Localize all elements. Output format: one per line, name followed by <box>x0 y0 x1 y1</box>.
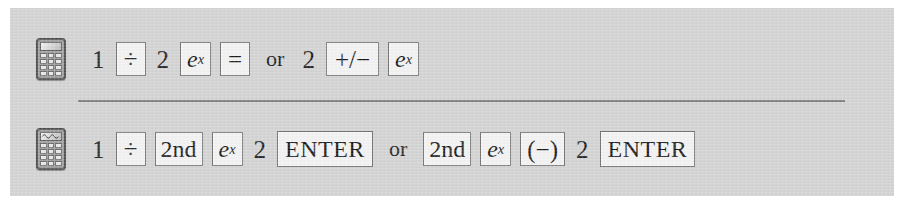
key-e-to-the-x-alt[interactable]: ex <box>480 132 511 166</box>
calculator-key <box>40 149 47 154</box>
key-e-base: e <box>395 47 406 71</box>
calculator-key <box>40 161 47 166</box>
keystroke-row-scientific: 1 ÷ 2 ex = or 2 +/− ex <box>36 30 419 88</box>
calculator-key <box>48 149 55 154</box>
calculator-key <box>40 143 47 148</box>
key-e-base: e <box>219 137 230 161</box>
calculator-keypad <box>40 53 62 76</box>
operand-one: 1 <box>90 47 107 72</box>
calculator-key <box>40 53 47 58</box>
calculator-key <box>55 149 62 154</box>
calculator-key <box>48 53 55 58</box>
operand-two: 2 <box>252 137 269 162</box>
graphing-calculator-icon <box>36 128 66 170</box>
key-divide[interactable]: ÷ <box>116 132 146 166</box>
calculator-key <box>55 53 62 58</box>
key-e-to-the-x[interactable]: ex <box>212 132 243 166</box>
calculator-key <box>40 71 47 76</box>
key-e-base: e <box>187 47 198 71</box>
calculator-keystroke-figure: 1 ÷ 2 ex = or 2 +/− ex <box>10 8 894 196</box>
key-e-to-the-x-alt[interactable]: ex <box>388 42 419 76</box>
calculator-display <box>40 42 62 51</box>
calculator-key <box>48 161 55 166</box>
horizontal-divider <box>78 100 845 102</box>
key-equals[interactable]: = <box>220 42 250 76</box>
operand-one: 1 <box>90 137 107 162</box>
calculator-key <box>40 65 47 70</box>
scientific-calculator-icon <box>36 38 66 80</box>
conjunction-or: or <box>387 138 409 160</box>
operand-two: 2 <box>155 47 172 72</box>
calculator-key <box>55 143 62 148</box>
calculator-key <box>55 155 62 160</box>
calculator-key <box>48 143 55 148</box>
calculator-keypad <box>40 143 62 166</box>
key-second-function[interactable]: 2nd <box>155 132 203 166</box>
calculator-key <box>40 155 47 160</box>
calculator-key <box>48 71 55 76</box>
key-e-base: e <box>487 137 498 161</box>
keystroke-row-graphing: 1 ÷ 2nd ex 2 ENTER or 2nd ex (−) 2 ENTER <box>36 120 695 178</box>
key-enter[interactable]: ENTER <box>277 131 373 167</box>
key-e-to-the-x[interactable]: ex <box>180 42 211 76</box>
calculator-key <box>55 71 62 76</box>
calculator-key <box>55 59 62 64</box>
operand-two-alt: 2 <box>574 137 591 162</box>
key-enter-alt[interactable]: ENTER <box>600 131 696 167</box>
key-negate[interactable]: (−) <box>520 132 565 166</box>
key-plus-minus[interactable]: +/− <box>326 42 379 76</box>
calculator-key <box>55 65 62 70</box>
key-second-function-alt[interactable]: 2nd <box>423 132 471 166</box>
calculator-key <box>48 65 55 70</box>
calculator-key <box>40 59 47 64</box>
graph-display-icon <box>40 132 62 141</box>
calculator-key <box>48 155 55 160</box>
key-divide[interactable]: ÷ <box>116 42 146 76</box>
conjunction-or: or <box>264 48 286 70</box>
operand-two-alt: 2 <box>300 47 317 72</box>
calculator-key <box>55 161 62 166</box>
calculator-key <box>48 59 55 64</box>
